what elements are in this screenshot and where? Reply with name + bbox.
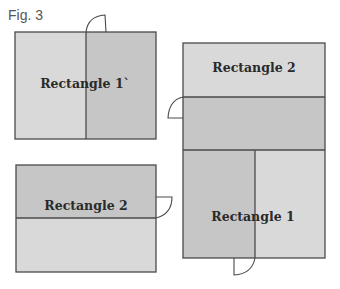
rectangle-2-bottom-left: Rectangle 2 xyxy=(16,165,172,272)
composite-top-label: Rectangle 2 xyxy=(212,60,295,75)
door-icon xyxy=(234,258,255,275)
composite-bottom-label: Rectangle 1 xyxy=(211,209,294,224)
rectangle-1-prime: Rectangle 1` xyxy=(15,15,156,139)
door-icon xyxy=(156,197,172,218)
door-icon xyxy=(86,15,106,32)
composite-right: Rectangle 2 Rectangle 1 xyxy=(168,43,325,275)
diagram: Rectangle 1` Rectangle 2 Rectangle 2 Rec… xyxy=(0,0,340,289)
door-icon xyxy=(168,97,183,118)
rect-1-prime-label: Rectangle 1` xyxy=(40,76,130,91)
rect-2-bottom-left-label: Rectangle 2 xyxy=(44,198,127,213)
